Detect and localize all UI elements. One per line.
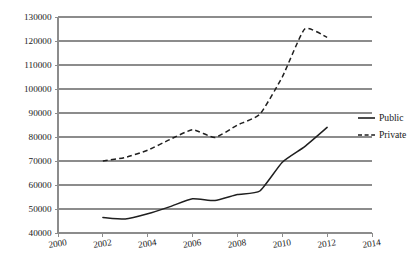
x-tick-label: 2008: [227, 237, 247, 250]
x-tick-label: 2012: [317, 237, 337, 250]
x-tick-label: 2014: [362, 237, 382, 250]
legend-label-private: Private: [379, 129, 406, 140]
chart-canvas: 4000050000600007000080000900001000001100…: [0, 0, 416, 257]
y-tick-label: 130000: [24, 12, 52, 22]
y-tick-label: 60000: [29, 180, 52, 190]
y-tick-label: 50000: [29, 204, 52, 214]
legend-group: PublicPrivate: [358, 112, 406, 140]
y-tick-label: 90000: [29, 108, 52, 118]
series-line-public: [103, 127, 327, 219]
y-tick-label: 70000: [29, 156, 52, 166]
x-tick-label: 2000: [48, 237, 68, 250]
x-tick-label: 2006: [182, 237, 202, 250]
x-tick-label: 2002: [93, 237, 113, 250]
y-tick-label: 120000: [24, 36, 52, 46]
x-tick-label: 2004: [138, 237, 158, 250]
y-tick-label: 110000: [24, 60, 52, 70]
series-group: [103, 28, 327, 219]
y-tick-label: 100000: [24, 84, 52, 94]
line-chart: 4000050000600007000080000900001000001100…: [0, 0, 416, 257]
x-axis-labels-group: 20002002200420062008201020122014: [48, 237, 382, 250]
x-axis-group: [58, 233, 372, 237]
legend-label-public: Public: [379, 112, 404, 123]
y-axis-labels-group: 4000050000600007000080000900001000001100…: [24, 12, 52, 238]
series-line-private: [103, 28, 327, 161]
y-tick-label: 40000: [29, 228, 52, 238]
x-tick-label: 2010: [272, 237, 292, 250]
y-tick-label: 80000: [29, 132, 52, 142]
